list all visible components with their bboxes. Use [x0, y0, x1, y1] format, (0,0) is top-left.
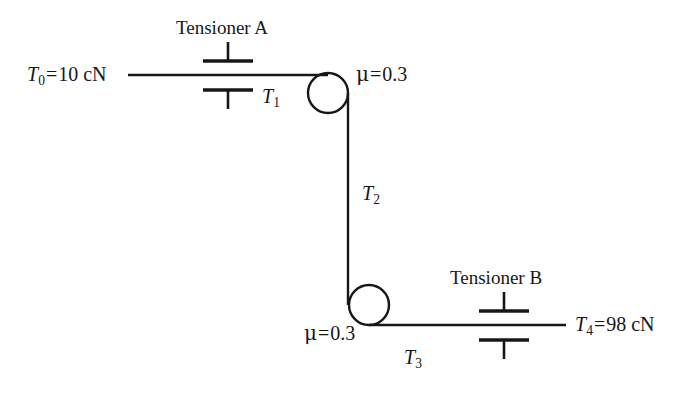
t0-subscript: 0	[38, 73, 45, 88]
t0-unit: cN	[83, 63, 106, 85]
t0-value: 10	[58, 63, 78, 85]
t0-equals: =	[45, 63, 58, 85]
t4-equals: =	[593, 313, 606, 335]
t3-subscript: 3	[415, 356, 422, 371]
t1-subscript: 1	[273, 95, 280, 110]
mu-bottom-equals: =	[317, 322, 330, 344]
mu-bottom-value: 0.3	[330, 322, 355, 344]
t2-subscript: 2	[373, 192, 380, 207]
tension-label-t4: T4=98 cN	[575, 314, 655, 338]
tension-label-t3: T3	[404, 347, 422, 371]
tension-label-t0: T0=10 cN	[27, 64, 107, 88]
t0-symbol: T	[27, 63, 38, 85]
t1-symbol: T	[262, 85, 273, 107]
t4-symbol: T	[575, 313, 586, 335]
friction-label-top: μ=0.3	[356, 64, 407, 84]
tension-label-t1: T1	[262, 86, 280, 110]
mu-top-equals: =	[369, 63, 382, 85]
tension-label-t2: T2	[362, 183, 380, 207]
t4-value: 98	[606, 313, 626, 335]
pulley-top	[308, 73, 348, 113]
mu-bottom-symbol: μ	[304, 321, 317, 345]
t4-subscript: 4	[586, 323, 593, 338]
pulley-bottom	[349, 285, 389, 325]
tensioner-b-label: Tensioner B	[450, 268, 542, 287]
tensioner-a-label: Tensioner A	[176, 18, 268, 37]
tension-diagram: Tensioner A T0=10 cN T1 μ=0.3 T2 μ=0.3 T…	[0, 0, 694, 393]
t3-symbol: T	[404, 346, 415, 368]
friction-label-bottom: μ=0.3	[304, 323, 355, 343]
mu-top-value: 0.3	[382, 63, 407, 85]
t4-unit: cN	[631, 313, 654, 335]
mu-top-symbol: μ	[356, 62, 369, 86]
t2-symbol: T	[362, 182, 373, 204]
